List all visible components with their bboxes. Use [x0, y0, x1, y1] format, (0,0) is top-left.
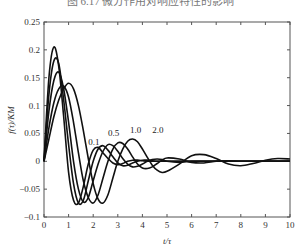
series-line [44, 83, 290, 203]
series-line [44, 86, 290, 204]
y-tick-label: 0 [36, 156, 41, 166]
curve-label: 1.0 [130, 125, 142, 135]
line-chart: 012345678910−0.1−0.0500.050.10.150.20.25… [0, 0, 301, 249]
x-tick-label: 3 [116, 220, 121, 230]
curve-label: 2.0 [152, 125, 164, 135]
series-line [44, 58, 290, 205]
y-axis-label: f(τ)/KM [6, 106, 16, 134]
x-tick-label: 8 [239, 220, 244, 230]
series-line [44, 47, 290, 205]
x-axis-label: t/τ [163, 236, 172, 246]
x-tick-label: 9 [263, 220, 268, 230]
curves [44, 47, 290, 205]
y-tick-label: −0.05 [19, 184, 40, 194]
x-tick-label: 10 [286, 220, 296, 230]
curve-label: 0.5 [108, 128, 120, 138]
x-tick-label: 1 [66, 220, 71, 230]
y-tick-label: 0.1 [29, 101, 40, 111]
axis-ticks: 012345678910−0.1−0.0500.050.10.150.20.25 [19, 17, 295, 230]
x-tick-label: 6 [189, 220, 194, 230]
y-tick-label: 0.25 [24, 17, 40, 27]
x-tick-label: 4 [140, 220, 145, 230]
x-tick-label: 7 [214, 220, 219, 230]
y-tick-label: 0.15 [24, 73, 40, 83]
y-tick-label: 0.2 [29, 45, 40, 55]
x-tick-label: 0 [42, 220, 47, 230]
x-tick-label: 5 [165, 220, 170, 230]
series-line [44, 72, 290, 203]
y-tick-label: 0.05 [24, 128, 40, 138]
x-tick-label: 2 [91, 220, 96, 230]
curve-label: 0.1 [88, 137, 99, 147]
y-tick-label: −0.1 [24, 212, 40, 222]
